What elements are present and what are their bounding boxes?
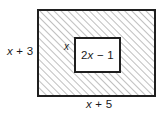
inner-width-label: 2x − 1 (81, 50, 114, 62)
outer-height-label: x + 3 (7, 46, 33, 58)
geometry-figure: x + 3 x + 5 x 2x − 1 (0, 0, 166, 115)
inner-height-label: x (64, 42, 69, 52)
outer-width-label: x + 5 (86, 99, 112, 111)
